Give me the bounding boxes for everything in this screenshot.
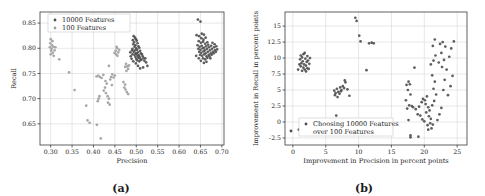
svg-text:15: 15	[273, 22, 281, 29]
subcaption-b: (b)	[243, 182, 485, 195]
svg-text:Precision: Precision	[116, 157, 148, 165]
svg-text:Choosing 10000 Features: Choosing 10000 Features	[313, 120, 399, 128]
svg-text:Improvement in Precision in pe: Improvement in Precision in percent poin…	[303, 157, 449, 165]
svg-text:0.65: 0.65	[22, 120, 36, 127]
scatter-plot-b: 0510152025-2.502.557.51012.515Improvemen…	[243, 0, 485, 196]
svg-text:0.50: 0.50	[129, 148, 143, 155]
svg-text:0.55: 0.55	[151, 148, 165, 155]
svg-text:12.5: 12.5	[267, 38, 281, 45]
scatter-plot-a: 0.300.350.400.450.500.550.600.650.700.65…	[0, 0, 242, 196]
svg-text:10: 10	[355, 148, 363, 155]
svg-text:20: 20	[420, 148, 428, 155]
svg-text:10000 Features: 10000 Features	[62, 16, 115, 24]
svg-text:0.65: 0.65	[194, 148, 208, 155]
svg-text:0.70: 0.70	[215, 148, 229, 155]
svg-text:0.45: 0.45	[108, 148, 122, 155]
subcaption-a: (a)	[0, 182, 242, 195]
figure-container: 0.300.350.400.450.500.550.600.650.700.65…	[0, 0, 485, 196]
svg-text:0.70: 0.70	[22, 95, 36, 102]
svg-text:Recall: Recall	[10, 68, 18, 89]
svg-text:25: 25	[453, 148, 461, 155]
svg-text:0.75: 0.75	[22, 70, 36, 77]
svg-text:0: 0	[291, 148, 295, 155]
svg-text:0.30: 0.30	[44, 148, 58, 155]
svg-text:5: 5	[277, 86, 281, 93]
svg-text:7.5: 7.5	[271, 70, 281, 77]
svg-text:0.40: 0.40	[87, 148, 101, 155]
svg-text:15: 15	[388, 148, 396, 155]
svg-text:10: 10	[273, 54, 281, 61]
svg-text:100 Features: 100 Features	[62, 24, 107, 32]
svg-text:0: 0	[277, 118, 281, 125]
svg-text:over 100 Features: over 100 Features	[313, 128, 375, 136]
svg-text:0.85: 0.85	[22, 19, 36, 26]
svg-text:0.35: 0.35	[65, 148, 79, 155]
svg-text:Improvement in Recall in perce: Improvement in Recall in percent points	[252, 10, 260, 146]
panel-a: 0.300.350.400.450.500.550.600.650.700.65…	[0, 0, 242, 196]
svg-text:0.80: 0.80	[22, 44, 36, 51]
panel-b: 0510152025-2.502.557.51012.515Improvemen…	[243, 0, 485, 196]
svg-text:-2.5: -2.5	[269, 134, 281, 141]
svg-text:5: 5	[324, 148, 328, 155]
svg-text:0.60: 0.60	[172, 148, 186, 155]
svg-text:2.5: 2.5	[271, 102, 281, 109]
